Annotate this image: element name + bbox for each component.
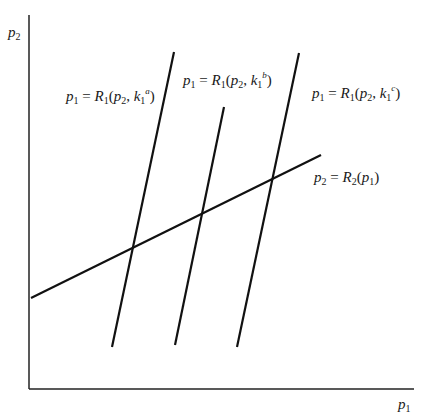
lhs-var: p: [314, 169, 322, 185]
y-axis-label: p2: [8, 25, 21, 40]
func-name: R: [94, 88, 103, 104]
func-name: R: [211, 72, 220, 88]
reaction-curve-r2: [31, 155, 321, 298]
label-r1-a: p1 = R1(p2, k1a): [66, 89, 155, 104]
func-name: R: [340, 85, 349, 101]
x-axis-label: p1: [398, 397, 411, 412]
arg2-sup: a: [145, 86, 150, 96]
lhs-sub: 1: [191, 79, 196, 90]
y-axis-label-sub: 2: [16, 31, 21, 42]
equals-sign: =: [328, 85, 336, 101]
lhs-sub: 2: [322, 176, 327, 187]
arg2-sub: 1: [140, 95, 145, 106]
lhs-sub: 1: [320, 92, 325, 103]
lhs-var: p: [312, 85, 320, 101]
arg2-sub: 1: [386, 92, 391, 103]
x-axis-label-sub: 1: [406, 403, 411, 414]
func-sub: 1: [104, 95, 109, 106]
func-sub: 1: [221, 79, 226, 90]
arg2-sup: c: [391, 83, 395, 93]
func-sub: 2: [352, 176, 357, 187]
func-sub: 1: [350, 92, 355, 103]
reaction-curve-r1-c: [237, 53, 299, 347]
lhs-var: p: [183, 72, 191, 88]
label-r2: p2 = R2(p1): [314, 170, 379, 185]
arg1-sub: 1: [369, 176, 374, 187]
arg1-sub: 2: [367, 92, 372, 103]
arg1-sub: 2: [121, 95, 126, 106]
arg1-sub: 2: [238, 79, 243, 90]
x-axis-label-var: p: [398, 396, 406, 412]
arg2-sub: 1: [257, 79, 262, 90]
label-r1-b: p1 = R1(p2, k1b): [183, 73, 272, 88]
reaction-curve-r1-b: [175, 107, 224, 345]
lhs-sub: 1: [74, 95, 79, 106]
func-name: R: [342, 169, 351, 185]
equals-sign: =: [330, 169, 338, 185]
equals-sign: =: [82, 88, 90, 104]
label-r1-c: p1 = R1(p2, k1c): [312, 86, 400, 101]
reaction-function-diagram: [0, 0, 429, 419]
arg2-sup: b: [262, 70, 267, 80]
equals-sign: =: [199, 72, 207, 88]
lhs-var: p: [66, 88, 74, 104]
y-axis-label-var: p: [8, 24, 16, 40]
